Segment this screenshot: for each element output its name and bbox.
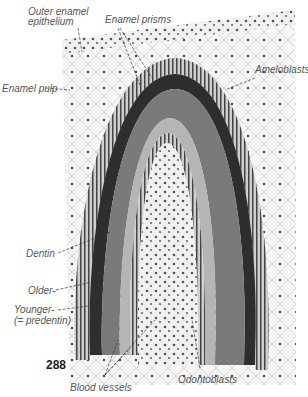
label-enamel-prisms: Enamel prisms — [105, 14, 171, 25]
label-younger: Younger- — [14, 304, 54, 315]
histology-figure: Outer enamel epithelium Enamel prisms Am… — [0, 0, 308, 397]
label-enamel-pulp: Enamel pulp — [2, 83, 58, 94]
tooth-germ-illustration — [0, 0, 308, 397]
label-dentin: Dentin — [26, 248, 55, 259]
label-older: Older- — [28, 285, 56, 296]
label-predentin: (= predentin) — [14, 315, 71, 326]
label-blood-vessels: Blood vessels — [70, 382, 132, 393]
label-odontoblasts: Odontoblasts — [178, 374, 237, 385]
label-ameloblasts: Ameloblasts — [255, 64, 308, 75]
label-outer-enamel-epithelium-2: epithelium — [28, 16, 74, 27]
figure-number: 288 — [46, 358, 66, 372]
